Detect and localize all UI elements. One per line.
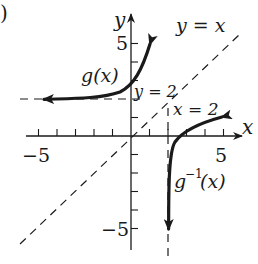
tick-label-x-neg5: −5 [22, 144, 50, 166]
tick-label-y-5: 5 [116, 32, 128, 54]
svg-text:(x): (x) [200, 170, 226, 192]
x-axis-label: x [242, 115, 253, 139]
label-y-equals-x: y = x [175, 14, 226, 36]
tick-label-y-neg5: −5 [101, 218, 129, 240]
label-g-inverse: g −1 (x) [174, 167, 226, 192]
line-y-equals-x [20, 34, 240, 244]
graph: ) [0, 0, 258, 264]
label-asymptote-y-2: y = 2 [133, 82, 177, 101]
y-axis-label: y [113, 8, 126, 32]
label-g: g(x) [81, 64, 119, 86]
tick-label-x-5: 5 [215, 144, 227, 166]
panel-label: ) [0, 1, 8, 25]
label-asymptote-x-2: x = 2 [173, 99, 218, 119]
